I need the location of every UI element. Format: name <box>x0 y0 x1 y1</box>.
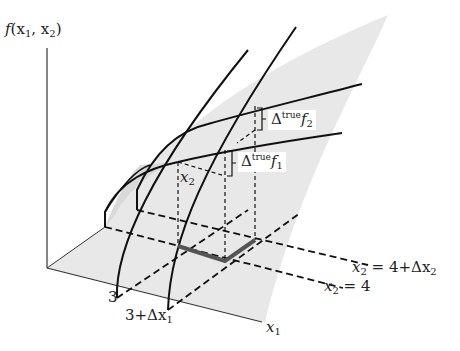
x1-axis-label: x1 <box>266 320 281 337</box>
tick-3: 3 <box>108 290 118 305</box>
line-label-x2-4dx: x2 = 4+Δx2 <box>352 260 437 277</box>
line-label-x2-4: x2 = 4 <box>324 279 371 296</box>
point-label-x2: x2 <box>180 170 195 187</box>
delta-true-f2-label: Δtruef2 <box>268 110 316 130</box>
f-axis-label: f(x1, x2) <box>5 22 61 39</box>
surface-plane <box>47 15 388 322</box>
surface-diagram <box>0 0 460 351</box>
delta-true-f1-label: Δtruef1 <box>238 152 286 172</box>
tick-3-plus-dx1: 3+Δx1 <box>125 308 173 325</box>
